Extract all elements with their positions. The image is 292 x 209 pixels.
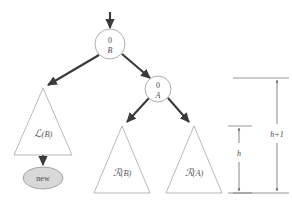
edge-b-to-left-subtree [48, 55, 99, 85]
node-a-balance: 0 [156, 81, 160, 90]
node-b-label: B [108, 46, 113, 55]
subtree-arg-a: (A) [193, 168, 204, 178]
node-a-label: A [155, 91, 161, 100]
node-group: 0 B 0 A [95, 29, 171, 102]
node-b-balance: 0 [108, 36, 112, 45]
subtree-arg-b: (B) [42, 129, 53, 139]
subtree-arg-b2: (B) [121, 168, 132, 178]
measure-h-plus-1-label: h+1 [270, 130, 283, 139]
subtree-triangle-right-of-a [166, 126, 222, 193]
edge-b-to-node-a [122, 54, 150, 78]
measurement-group: h h+1 [228, 78, 289, 193]
subtree-triangle-right-of-b [94, 126, 150, 193]
new-node-label: new [36, 174, 50, 183]
edge-a-to-right-subtree-b [127, 98, 149, 122]
script-letter-l: ℒ [34, 128, 42, 139]
diagram-canvas: ℒ(B) ℛ(B) ℛ(A) 0 B 0 A new [0, 0, 292, 209]
subtree-triangle-left-of-b [14, 88, 72, 155]
measure-h-label: h [237, 149, 241, 158]
subtree-label-r-b: ℛ(B) [113, 167, 132, 178]
edge-a-to-right-subtree-a [168, 98, 189, 122]
avl-tree-diagram: ℒ(B) ℛ(B) ℛ(A) 0 B 0 A new [0, 0, 292, 209]
subtree-label-l-b: ℒ(B) [34, 128, 53, 139]
new-node-group: new [23, 167, 63, 189]
subtree-label-r-a: ℛ(A) [185, 167, 204, 178]
